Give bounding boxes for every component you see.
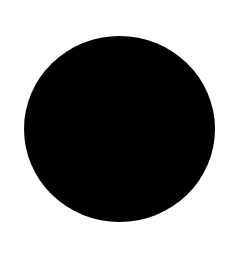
canvas: [0, 0, 233, 261]
black-circle-shape: [24, 36, 215, 222]
